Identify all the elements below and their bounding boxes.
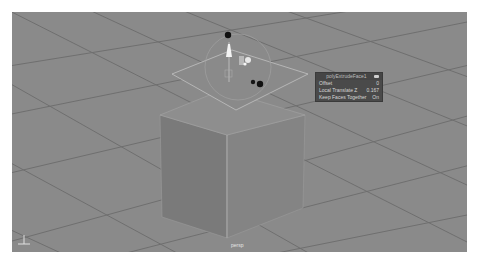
panel-title: polyExtrudeFace1 [319, 73, 374, 80]
camera-label: persp [231, 242, 244, 248]
cube-mesh[interactable] [160, 50, 308, 238]
local-translate-z-row[interactable]: Local Translate Z 0.167 [316, 87, 382, 94]
keep-faces-together-label: Keep Faces Together [319, 94, 366, 101]
manip-handle-top [225, 32, 231, 38]
scene-canvas[interactable] [12, 12, 467, 252]
keep-faces-together-row[interactable]: Keep Faces Together On [316, 94, 382, 101]
offset-label: Offset [319, 80, 332, 87]
panel-header: polyExtrudeFace1 [316, 73, 382, 80]
axis-indicator-icon [16, 232, 32, 248]
manip-handle-right [257, 81, 263, 87]
offset-value[interactable]: 0 [376, 80, 379, 87]
in-view-editor-panel[interactable]: polyExtrudeFace1 Offset 0 Local Translat… [315, 72, 383, 102]
scale-handle [239, 56, 244, 65]
scale-knob [245, 57, 251, 63]
local-translate-z-value[interactable]: 0.167 [366, 87, 379, 94]
offset-row[interactable]: Offset 0 [316, 80, 382, 87]
3d-viewport[interactable]: polyExtrudeFace1 Offset 0 Local Translat… [12, 12, 467, 252]
pin-icon[interactable] [374, 75, 379, 78]
local-translate-z-label: Local Translate Z [319, 87, 357, 94]
keep-faces-together-value[interactable]: On [372, 94, 379, 101]
